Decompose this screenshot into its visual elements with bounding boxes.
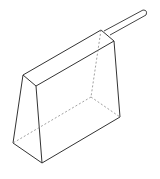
rod-handle <box>104 10 147 35</box>
visible-edges <box>13 30 120 163</box>
trapezoidal-prism-figure <box>0 0 160 179</box>
diagram-canvas <box>0 0 160 179</box>
